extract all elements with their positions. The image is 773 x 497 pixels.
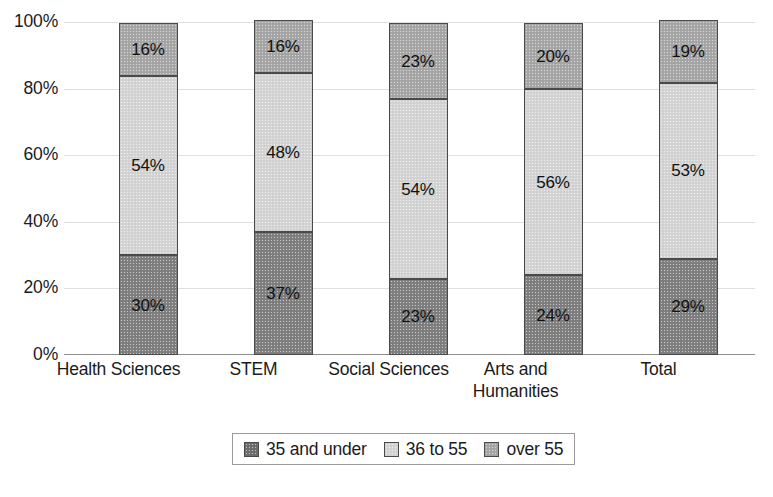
bar-segment-36-to-55[interactable]: 56% xyxy=(524,89,583,275)
bar-segment-value-label: 37% xyxy=(266,285,299,302)
bar-segment-under-35[interactable]: 24% xyxy=(524,275,583,355)
bar-segment-36-to-55[interactable]: 48% xyxy=(254,73,313,232)
bar-segment-value-label: 20% xyxy=(536,48,569,65)
bar-segment-value-label: 56% xyxy=(536,174,569,191)
light-gray-swatch-icon xyxy=(384,442,399,457)
bar-segment-value-label: 23% xyxy=(401,53,434,70)
bar-group-arts-and-humanities: 24%56%20% xyxy=(524,22,583,355)
bar-segment-under-35[interactable]: 30% xyxy=(119,255,178,355)
bar-group-social-sciences: 23%54%23% xyxy=(389,22,448,355)
bar-group-total: 29%53%19% xyxy=(659,22,718,355)
bar-group-health-sciences: 30%54%16% xyxy=(119,22,178,355)
bar-segment-under-35[interactable]: 23% xyxy=(389,279,448,355)
bar-segment-value-label: 19% xyxy=(671,43,704,60)
bar-segment-over-55[interactable]: 20% xyxy=(524,23,583,89)
bar-segment-value-label: 54% xyxy=(131,157,164,174)
legend-item-35-and-under[interactable]: 35 and under xyxy=(244,440,367,458)
y-axis-tick-20: 20% xyxy=(0,279,58,297)
x-axis-label-stem: STEM xyxy=(179,358,329,380)
bar-segment-value-label: 53% xyxy=(671,162,704,179)
plot-area: 30%54%16%37%48%16%23%54%23%24%56%20%29%5… xyxy=(64,22,755,355)
stacked-bar-chart: 100% 80% 60% 40% 20% 0% 30%54%16%37%48%1… xyxy=(0,0,773,497)
bar-segment-value-label: 48% xyxy=(266,144,299,161)
bar-segment-value-label: 16% xyxy=(131,41,164,58)
bar-segment-value-label: 30% xyxy=(131,297,164,314)
medium-gray-swatch-icon xyxy=(484,442,499,457)
x-axis-category-labels: Health Sciences STEM Social Sciences Art… xyxy=(64,358,755,414)
y-axis-tick-100: 100% xyxy=(0,13,58,31)
bar-segment-under-35[interactable]: 29% xyxy=(659,259,718,355)
bar-group-stem: 37%48%16% xyxy=(254,22,313,355)
bar-segment-value-label: 24% xyxy=(536,307,569,324)
y-axis-labels: 100% 80% 60% 40% 20% 0% xyxy=(0,0,58,380)
bar-segment-over-55[interactable]: 16% xyxy=(119,23,178,76)
legend: 35 and under 36 to 55 over 55 xyxy=(232,433,575,465)
legend-item-over-55[interactable]: over 55 xyxy=(484,440,563,458)
x-axis-label-social-sciences: Social Sciences xyxy=(314,358,464,380)
bar-segment-over-55[interactable]: 19% xyxy=(659,20,718,83)
bar-segment-36-to-55[interactable]: 53% xyxy=(659,83,718,259)
x-axis-label-total: Total xyxy=(584,358,734,380)
bar-segment-value-label: 23% xyxy=(401,308,434,325)
bar-segment-value-label: 54% xyxy=(401,181,434,198)
bar-segment-value-label: 16% xyxy=(266,38,299,55)
legend-item-36-to-55[interactable]: 36 to 55 xyxy=(384,440,468,458)
bar-segment-36-to-55[interactable]: 54% xyxy=(119,76,178,255)
legend-label-36-to-55: 36 to 55 xyxy=(406,440,468,458)
y-axis-tick-40: 40% xyxy=(0,213,58,231)
bar-segment-over-55[interactable]: 16% xyxy=(254,20,313,73)
bar-segment-over-55[interactable]: 23% xyxy=(389,23,448,99)
y-axis-tick-60: 60% xyxy=(0,146,58,164)
bar-segment-under-35[interactable]: 37% xyxy=(254,232,313,355)
bar-segment-36-to-55[interactable]: 54% xyxy=(389,99,448,278)
x-axis-label-health-sciences: Health Sciences xyxy=(44,358,194,380)
legend-label-over-55: over 55 xyxy=(506,440,563,458)
dark-gray-swatch-icon xyxy=(244,442,259,457)
y-axis-tick-80: 80% xyxy=(0,80,58,98)
x-axis-label-arts-and-humanities: Arts and Humanities xyxy=(449,358,583,402)
legend-label-35-and-under: 35 and under xyxy=(266,440,367,458)
bar-segment-value-label: 29% xyxy=(671,298,704,315)
